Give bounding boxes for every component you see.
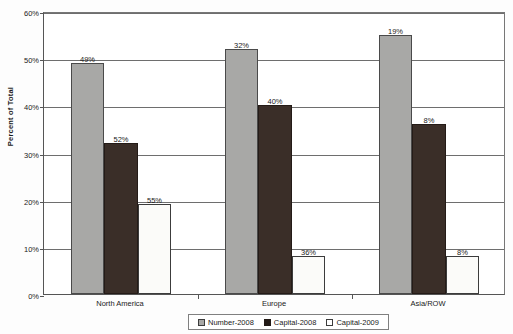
- y-tick-label: 10%: [24, 244, 39, 253]
- bar-value-label: 55%: [147, 196, 162, 206]
- legend-item-capital-2008[interactable]: Capital-2008: [264, 318, 317, 327]
- white-swatch-icon: [326, 319, 333, 326]
- y-tick-label: 30%: [24, 150, 39, 159]
- x-category-label-europe: Europe: [262, 299, 286, 308]
- y-tick-label: 40%: [24, 103, 39, 112]
- legend-label: Number-2008: [208, 318, 254, 327]
- bar-value-label: 36%: [301, 248, 316, 258]
- legend-label: Capital-2008: [274, 318, 317, 327]
- y-tick-mark: [40, 13, 44, 14]
- bar-value-label: 8%: [424, 116, 435, 126]
- y-tick-mark: [40, 60, 44, 61]
- y-tick-mark: [40, 249, 44, 250]
- bar-3-north-america: [138, 204, 172, 294]
- y-tick-mark: [40, 202, 44, 203]
- bar-1-europe: [225, 49, 259, 294]
- plot-area: 0%10%20%30%40%50%60% 49%52%55%32%40%36%1…: [43, 12, 505, 295]
- x-category-label-asia-row: Asia/ROW: [410, 299, 445, 308]
- bar-value-label: 40%: [267, 97, 282, 107]
- y-tick-mark: [40, 296, 44, 297]
- y-tick-label: 20%: [24, 197, 39, 206]
- legend-label: Capital-2009: [336, 318, 379, 327]
- x-category-label-north-america: North America: [96, 299, 144, 308]
- bar-3-asia-row: [446, 256, 480, 294]
- bar-2-europe: [258, 105, 292, 294]
- legend-item-capital-2009[interactable]: Capital-2009: [326, 318, 379, 327]
- bar-value-label: 32%: [234, 41, 249, 51]
- y-tick-mark: [40, 155, 44, 156]
- bar-value-label: 52%: [113, 135, 128, 145]
- black-swatch-icon: [264, 319, 271, 326]
- legend-item-number-2008[interactable]: Number-2008: [198, 318, 254, 327]
- bar-1-asia-row: [379, 35, 413, 294]
- y-axis-title: Percent of Total: [6, 62, 15, 172]
- x-tick-mark: [198, 294, 199, 299]
- bar-value-label: 19%: [388, 27, 403, 37]
- gridline: [44, 60, 504, 61]
- gridline: [44, 13, 504, 14]
- bar-2-north-america: [104, 143, 138, 294]
- y-tick-label: 50%: [24, 56, 39, 65]
- x-tick-mark: [352, 294, 353, 299]
- chart-legend: Number-2008Capital-2008Capital-2009: [188, 314, 389, 330]
- y-tick-mark: [40, 107, 44, 108]
- y-tick-label: 60%: [24, 9, 39, 18]
- bar-3-europe: [292, 256, 326, 294]
- bar-1-north-america: [71, 63, 105, 294]
- gray-swatch-icon: [198, 319, 205, 326]
- bar-chart: Percent of Total 0%10%20%30%40%50%60% 49…: [0, 0, 513, 334]
- bar-2-asia-row: [412, 124, 446, 294]
- y-tick-label: 0%: [28, 292, 39, 301]
- bar-value-label: 49%: [80, 55, 95, 65]
- bar-value-label: 8%: [457, 248, 468, 258]
